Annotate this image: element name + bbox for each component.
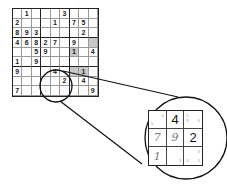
grid-cell	[51, 57, 60, 67]
grid-cell	[22, 67, 31, 77]
grid-cell: 7	[51, 38, 60, 48]
grid-cell: ·	[51, 28, 60, 38]
grid-cell: 6	[22, 38, 31, 48]
grid-cell: 4	[51, 67, 60, 77]
pencil-note: 5	[198, 158, 200, 163]
grid-cell: ·	[79, 57, 88, 67]
handwritten-digit: 1	[154, 150, 161, 163]
pencil-note: 3	[179, 158, 181, 163]
grid-cell: ·	[89, 77, 98, 87]
grid-cell: ·	[32, 9, 41, 19]
grid-cell: ·	[41, 19, 50, 29]
grid-cell: ·	[70, 67, 79, 77]
grid-cell: 4	[13, 38, 22, 48]
inset-cell: 7	[149, 129, 167, 147]
grid-cell: 4	[79, 77, 88, 87]
grid-cell: 8	[32, 38, 41, 48]
grid-cell: ·	[32, 67, 41, 77]
inset-cell: 9	[167, 129, 185, 147]
handwritten-digit: 7	[154, 131, 161, 144]
inset-cell: 2	[184, 129, 202, 147]
grid-cell: ·	[60, 19, 69, 29]
grid-cell: 1	[41, 86, 50, 96]
grid-cell: ·	[70, 9, 79, 19]
given-digit: 4	[171, 112, 178, 127]
grid-cell	[51, 86, 60, 96]
inset-cell: 65	[149, 111, 167, 129]
grid-cell: 1	[22, 9, 31, 19]
grid-cell: ·	[89, 28, 98, 38]
grid-cell: ·	[79, 38, 88, 48]
grid-cell: ·	[89, 67, 98, 77]
grid-cell: ·	[51, 9, 60, 19]
pencil-note: 5	[151, 121, 153, 126]
grid-cell: ·	[22, 19, 31, 29]
grid-cell: ·	[22, 48, 31, 58]
handwritten-digit: 9	[171, 131, 178, 144]
grid-cell: 1	[13, 57, 22, 67]
grid-cell	[41, 67, 50, 77]
grid-cell: ·	[89, 9, 98, 19]
grid-cell: ·	[89, 19, 98, 29]
grid-cell: 9	[41, 48, 50, 58]
grid-cell: 4	[89, 48, 98, 58]
pencil-note: 3	[186, 158, 188, 163]
grid-cell: 9	[89, 86, 98, 96]
grid-cell: ·	[41, 57, 50, 67]
grid-cell	[41, 9, 50, 19]
given-digit: 2	[190, 130, 197, 145]
pencil-note: 8	[186, 118, 188, 123]
grid-cell	[22, 86, 31, 96]
grid-cell: 1	[79, 67, 88, 77]
pencil-note: 6	[198, 149, 200, 154]
sudoku-grid: ·1··3···2···1·75·893···2·46827·9····591·…	[12, 8, 99, 97]
grid-cell: 9	[13, 67, 22, 77]
grid-cell: 9	[32, 57, 41, 67]
grid-cell: 3	[60, 9, 69, 19]
grid-cell: 5	[79, 19, 88, 29]
grid-cell: ·	[32, 86, 41, 96]
grid-cell: ·	[60, 28, 69, 38]
grid-cell: 5	[32, 48, 41, 58]
connector-line-bottom	[60, 101, 142, 164]
grid-cell: 8	[13, 28, 22, 38]
grid-cell	[60, 67, 69, 77]
grid-cell: 2	[41, 38, 50, 48]
grid-cell: ·	[60, 38, 69, 48]
magnified-inset-grid: 65458679213635	[148, 110, 203, 166]
inset-cell: 635	[184, 147, 202, 165]
inset-cell: 4	[167, 111, 185, 129]
grid-cell	[60, 57, 69, 67]
grid-cell: ·	[89, 38, 98, 48]
grid-cell: 9	[22, 28, 31, 38]
grid-cell: ·	[89, 57, 98, 67]
grid-cell	[60, 48, 69, 58]
grid-cell: 7	[13, 86, 22, 96]
grid-cell: ·	[79, 48, 88, 58]
grid-cell: ·	[13, 48, 22, 58]
grid-cell: 2	[13, 19, 22, 29]
inset-cell: 3	[167, 147, 185, 165]
grid-cell: ·	[51, 77, 60, 87]
grid-cell: ·	[79, 86, 88, 96]
grid-cell: 9	[70, 38, 79, 48]
grid-cell	[51, 48, 60, 58]
grid-cell: 7	[70, 19, 79, 29]
grid-cell: ·	[32, 19, 41, 29]
grid-cell: ·	[70, 77, 79, 87]
grid-cell	[60, 86, 69, 96]
grid-cell: 1	[70, 48, 79, 58]
grid-cell	[41, 28, 50, 38]
grid-cell: 3	[32, 28, 41, 38]
pencil-note: 6	[198, 118, 200, 123]
grid-cell: ·	[70, 28, 79, 38]
grid-cell: ·	[13, 77, 22, 87]
grid-cell: 2	[60, 77, 69, 87]
grid-cell	[70, 86, 79, 96]
grid-cell: ·	[13, 9, 22, 19]
grid-cell: ·	[70, 57, 79, 67]
grid-cell: 1	[51, 19, 60, 29]
inset-cell: 586	[184, 111, 202, 129]
grid-cell: 2	[79, 28, 88, 38]
inset-cell: 1	[149, 147, 167, 165]
